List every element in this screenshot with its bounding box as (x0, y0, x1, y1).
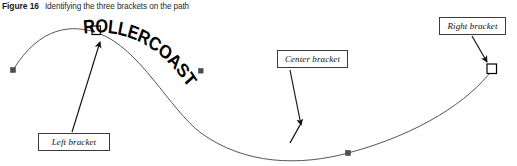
anchor-point-middle[interactable] (199, 69, 204, 74)
callout-right-bracket-label: Right bracket (447, 21, 497, 31)
path-type-textpath: ROLLERCOASTER (0, 0, 200, 91)
figure-container: Figure 16 Identifying the three brackets… (0, 0, 517, 166)
center-bracket-leader-arrow (290, 70, 301, 125)
anchor-point-start[interactable] (11, 68, 16, 73)
callout-center-bracket-label: Center bracket (285, 54, 340, 64)
callout-left-bracket-label: Left bracket (52, 137, 96, 147)
center-bracket-handle[interactable] (290, 125, 300, 143)
left-bracket-leader-arrow (72, 42, 100, 132)
callout-left-bracket: Left bracket (38, 133, 110, 151)
right-bracket-leader-arrow (472, 36, 487, 62)
callout-center-bracket: Center bracket (277, 50, 348, 68)
right-bracket-handle[interactable] (487, 64, 497, 74)
callout-right-bracket: Right bracket (439, 17, 506, 35)
path-type-text: ROLLERCOASTER (0, 0, 200, 91)
anchor-point-bottom[interactable] (346, 151, 351, 156)
